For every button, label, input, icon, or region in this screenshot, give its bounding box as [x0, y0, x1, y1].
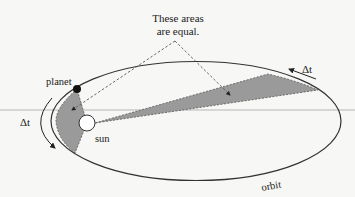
delta-t-right-label: Δt [302, 63, 312, 75]
callout-line-left [72, 41, 175, 110]
right-swept-area [95, 74, 318, 123]
delta-t-left-label: Δt [20, 116, 30, 128]
left-motion-arrow [41, 98, 55, 148]
sun-label: sun [95, 133, 110, 144]
kepler-second-law-diagram: These areas are equal. planet sun orbit … [0, 0, 355, 197]
callout-line-right [175, 41, 230, 95]
sun-icon [79, 115, 95, 131]
callout-text-line2: are equal. [157, 25, 200, 37]
planet-label: planet [46, 76, 72, 87]
planet-icon [73, 85, 81, 93]
callout-text-line1: These areas [152, 12, 204, 24]
orbit-label: orbit [260, 179, 282, 193]
